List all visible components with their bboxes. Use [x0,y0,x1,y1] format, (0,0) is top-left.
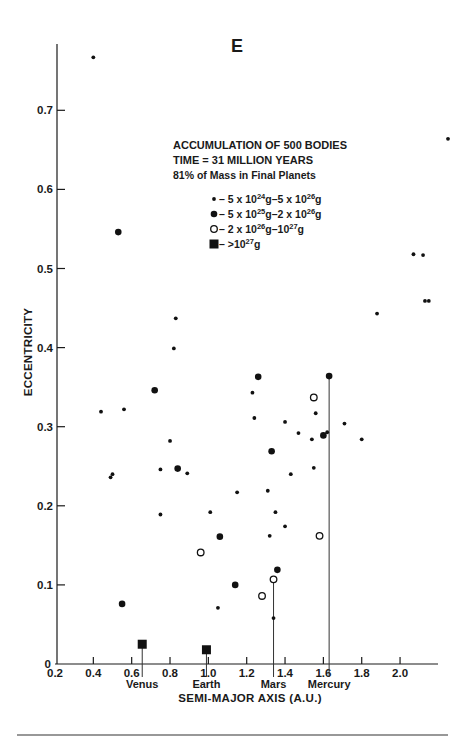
data-point-open-circle [259,593,266,600]
data-point-small-dot [251,391,255,395]
panel-title: E [231,36,243,56]
y-tick-label: 0.1 [37,579,54,591]
data-point-large-dot [326,373,333,380]
data-point-small-dot [446,137,450,141]
data-point-small-dot [310,437,314,441]
data-point-small-dot [252,416,256,420]
legend-marker-square [210,240,219,249]
x-tick-label: 0.4 [85,667,102,679]
data-point-large-dot [151,387,158,394]
x-axis-title: SEMI-MAJOR AXIS (A.U.) [178,692,322,704]
legend: – 5 x 1024g–5 x 1026g– 5 x 1025g–2 x 102… [210,192,322,250]
legend-label: – 5 x 1025g–2 x 1026g [219,207,322,220]
data-point-small-dot [283,524,287,528]
data-point-large-dot [320,432,327,439]
x-tick-label: 2.0 [392,667,408,679]
annotation-line-2: TIME = 31 MILLION YEARS [173,154,313,166]
y-tick-label: 0.4 [37,342,54,354]
data-point-small-dot [289,472,293,476]
data-point-small-dot [99,410,103,414]
y-tick-label: 0 [45,658,51,670]
data-point-small-dot [172,346,176,350]
data-point-large-dot [268,448,275,455]
data-point-small-dot [360,437,364,441]
planet-label-venus: Venus [126,678,158,690]
y-tick-label: 0.5 [37,263,54,275]
y-tick-label: 0.7 [37,104,53,116]
data-point-small-dot [208,510,212,514]
data-point-small-dot [109,475,113,479]
data-point-small-dot [423,299,427,303]
y-tick-label: 0.3 [37,421,53,433]
x-ticks: 0.20.40.60.81.01.21.41.61.82.0 [47,657,408,679]
x-tick-label: 1.8 [354,667,371,679]
data-point-small-dot [174,316,178,320]
data-point-small-dot [91,55,95,59]
data-point-large-dot [274,567,281,574]
legend-marker-small-dot [212,197,216,201]
data-point-square [202,645,211,654]
data-point-open-circle [197,549,204,556]
data-point-small-dot [268,534,272,538]
data-point-small-dot [297,431,301,435]
annotation-line-1: ACCUMULATION OF 500 BODIES [173,139,347,151]
data-point-large-dot [232,582,239,589]
data-point-open-circle [310,394,317,401]
data-point-open-circle [270,576,277,583]
data-point-small-dot [216,606,220,610]
data-point-large-dot [174,465,181,472]
data-point-small-dot [235,490,239,494]
legend-label: – >1027g [219,237,260,250]
data-point-small-dot [122,407,126,411]
planet-label-mars: Mars [261,678,287,690]
annotation-line-3: 81% of Mass in Final Planets [173,169,316,181]
data-point-large-dot [217,533,224,540]
planet-label-mercury: Mercury [308,678,352,690]
y-ticks: 00.10.20.30.40.50.60.7 [37,104,65,670]
y-tick-label: 0.2 [37,500,53,512]
data-point-small-dot [314,411,318,415]
y-axis-title: ECCENTRICITY [22,308,34,397]
data-point-small-dot [272,616,276,620]
data-point-small-dot [168,439,172,443]
data-point-small-dot [343,422,347,426]
chart-annotation: ACCUMULATION OF 500 BODIES TIME = 31 MIL… [173,139,347,181]
legend-label: – 5 x 1024g–5 x 1026g [219,192,322,205]
data-point-open-circle [316,533,323,540]
legend-marker-large-dot [211,211,218,218]
data-point-small-dot [427,299,431,303]
data-point-small-dot [375,312,379,316]
data-point-small-dot [312,466,316,470]
legend-marker-open-circle [211,226,218,233]
scatter-chart: E 0.20.40.60.81.01.21.41.61.82.0 00.10.2… [0,0,465,739]
data-point-small-dot [421,253,425,257]
data-point-small-dot [185,471,189,475]
data-point-small-dot [159,513,163,517]
data-point-large-dot [255,374,262,381]
y-tick-label: 0.6 [37,183,53,195]
data-point-large-dot [119,601,126,608]
data-point-small-dot [412,252,416,256]
data-point-small-dot [111,472,115,476]
legend-label: – 2 x 1026g–1027g [219,222,304,235]
x-tick-label: 0.8 [162,667,179,679]
data-point-small-dot [283,420,287,424]
planet-label-earth: Earth [192,678,220,690]
data-point-small-dot [274,510,278,514]
data-point-small-dot [159,468,163,472]
x-tick-label: 1.2 [239,667,255,679]
data-point-square [138,640,147,649]
data-point-large-dot [115,229,122,236]
data-point-small-dot [266,489,270,493]
